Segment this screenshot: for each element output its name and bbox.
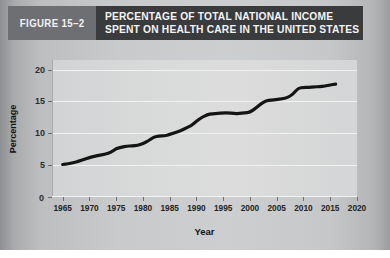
figure-number-label: FIGURE 15–2 [20, 17, 85, 29]
x-tick-2015 [330, 197, 331, 201]
origin-zero-label: 0 [39, 193, 44, 203]
x-tick-label-2015: 2015 [321, 203, 339, 213]
y-tick-label-20: 20 [35, 65, 45, 75]
figure-title-line-2: SPENT ON HEALTH CARE IN THE UNITED STATE… [105, 23, 359, 37]
x-tick-label-1990: 1990 [187, 203, 205, 213]
data-series-line [52, 60, 357, 197]
x-tick-label-1980: 1980 [134, 203, 152, 213]
x-tick-1970 [89, 197, 90, 201]
figure-number-badge: FIGURE 15–2 [8, 6, 96, 40]
x-tick-2000 [250, 197, 251, 201]
x-tick-2010 [303, 197, 304, 201]
health-care-share-line [63, 84, 336, 164]
y-tick-label-5: 5 [40, 160, 45, 170]
x-tick-label-2020: 2020 [348, 203, 366, 213]
plot-area: 5101520 19651970197519801985199019952000… [52, 60, 357, 197]
y-tick-label-10: 10 [35, 128, 45, 138]
figure-title: PERCENTAGE OF TOTAL NATIONAL INCOME SPEN… [96, 6, 378, 40]
x-tick-2005 [277, 197, 278, 201]
y-axis-title: Percentage [6, 60, 20, 197]
x-tick-label-1985: 1985 [160, 203, 178, 213]
x-tick-1980 [143, 197, 144, 201]
x-tick-1995 [223, 197, 224, 201]
y-tick-label-15: 15 [35, 96, 45, 106]
x-tick-label-1995: 1995 [214, 203, 232, 213]
x-tick-1990 [196, 197, 197, 201]
x-tick-label-1965: 1965 [53, 203, 71, 213]
x-tick-1965 [63, 197, 64, 201]
x-tick-2020 [357, 197, 358, 201]
figure-title-line-1: PERCENTAGE OF TOTAL NATIONAL INCOME [105, 10, 359, 24]
x-tick-1975 [116, 197, 117, 201]
x-tick-label-1975: 1975 [107, 203, 125, 213]
x-tick-1985 [170, 197, 171, 201]
figure-title-bar: FIGURE 15–2 PERCENTAGE OF TOTAL NATIONAL… [8, 6, 363, 40]
x-tick-label-2005: 2005 [268, 203, 286, 213]
x-tick-label-1970: 1970 [80, 203, 98, 213]
x-tick-label-2000: 2000 [241, 203, 259, 213]
x-tick-label-2010: 2010 [294, 203, 312, 213]
x-axis-title: Year [52, 226, 357, 237]
y-tick-0 [48, 197, 52, 198]
figure-panel: FIGURE 15–2 PERCENTAGE OF TOTAL NATIONAL… [0, 0, 390, 258]
